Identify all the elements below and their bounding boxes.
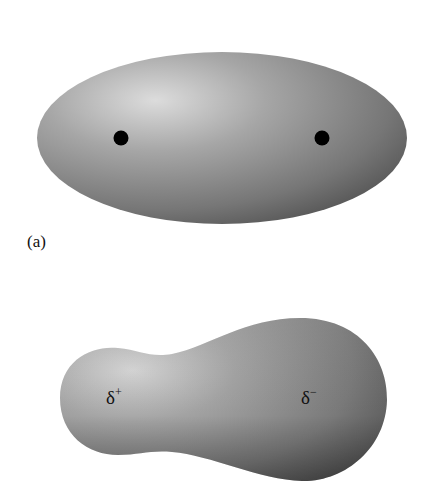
ellipsoid-cloud — [37, 52, 407, 224]
figure-canvas — [0, 0, 435, 493]
right-nucleus-dot — [315, 131, 330, 146]
panel-a-label: (a) — [27, 232, 46, 252]
delta-symbol: δ — [301, 387, 310, 408]
left-nucleus-dot — [114, 131, 129, 146]
delta-symbol: δ — [106, 387, 115, 408]
plus-sign: + — [115, 385, 122, 399]
partial-negative-charge: δ− — [301, 386, 317, 409]
partial-positive-charge: δ+ — [106, 386, 122, 409]
minus-sign: − — [310, 385, 317, 399]
panel-a-electron-cloud — [37, 52, 407, 224]
